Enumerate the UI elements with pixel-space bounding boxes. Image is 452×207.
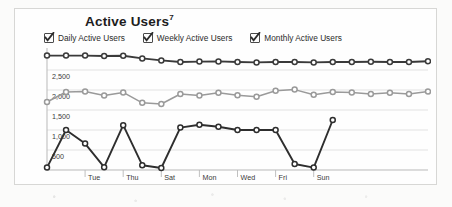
- legend-label-weekly: Weekly Active Users: [157, 33, 232, 43]
- legend-label-monthly: Monthly Active Users: [264, 33, 341, 43]
- page-title-text: Active Users: [85, 14, 169, 29]
- legend-item-monthly[interactable]: Monthly Active Users: [250, 33, 341, 43]
- checkbox-checked-icon[interactable]: [143, 33, 153, 43]
- legend-item-daily[interactable]: Daily Active Users: [44, 33, 125, 43]
- legend-item-weekly[interactable]: Weekly Active Users: [143, 33, 232, 43]
- chart-legend: Daily Active Users Weekly Active Users M…: [44, 33, 342, 43]
- checkbox-checked-icon[interactable]: [250, 33, 260, 43]
- page-title-footnote: 7: [169, 13, 174, 22]
- page-title: Active Users7: [85, 13, 174, 29]
- checkbox-checked-icon[interactable]: [44, 33, 54, 43]
- legend-label-daily: Daily Active Users: [58, 33, 125, 43]
